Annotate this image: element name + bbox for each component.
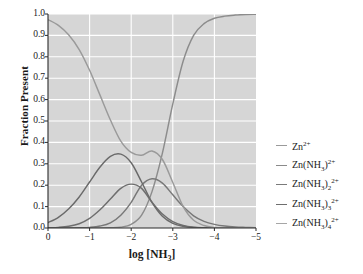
- legend-item-label: Zn(NH3)32+: [292, 197, 339, 212]
- legend-line-icon: [276, 165, 287, 166]
- chart-legend: Zn2+Zn(NH3)2+Zn(NH3)22+Zn(NH3)32+Zn(NH3)…: [276, 136, 362, 234]
- legend-line-icon: [276, 223, 287, 224]
- legend-item-1[interactable]: Zn(NH3)2+: [276, 156, 362, 176]
- legend-line-icon: [276, 184, 287, 185]
- speciation-chart-figure: Fraction Present 0.00.10.20.30.40.50.60.…: [0, 0, 363, 274]
- legend-item-3[interactable]: Zn(NH3)32+: [276, 195, 362, 215]
- legend-item-label: Zn(NH3)22+: [292, 177, 339, 192]
- legend-item-0[interactable]: Zn2+: [276, 136, 362, 156]
- legend-item-label: Zn2+: [292, 140, 311, 152]
- legend-item-label: Zn(NH3)42+: [292, 216, 339, 231]
- legend-line-icon: [276, 145, 287, 146]
- legend-line-icon: [276, 204, 287, 205]
- legend-item-2[interactable]: Zn(NH3)22+: [276, 175, 362, 195]
- legend-item-4[interactable]: Zn(NH3)42+: [276, 214, 362, 234]
- legend-item-label: Zn(NH3)2+: [292, 158, 335, 173]
